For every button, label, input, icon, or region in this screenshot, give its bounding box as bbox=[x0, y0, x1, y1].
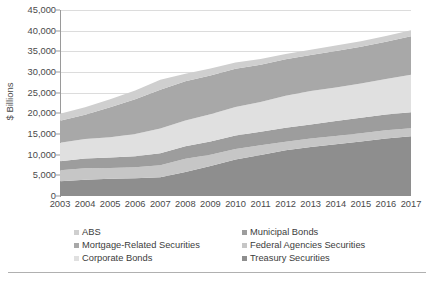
x-axis-tick-label: 2011 bbox=[251, 199, 271, 209]
legend-swatch-icon bbox=[74, 256, 79, 261]
x-axis-tick-labels: 2003200420052006200720082009201020112012… bbox=[60, 199, 411, 213]
x-axis-tick-label: 2010 bbox=[225, 199, 246, 209]
y-axis-tick-label: 40,000 bbox=[18, 26, 56, 36]
y-axis-tick-label: 5,000 bbox=[18, 170, 56, 180]
y-axis-title: $ Billions bbox=[4, 62, 15, 142]
legend-swatch-icon bbox=[242, 230, 247, 235]
y-axis-tick-label: 30,000 bbox=[18, 67, 56, 77]
footer-divider bbox=[8, 272, 426, 273]
x-axis-tick-label: 2003 bbox=[50, 199, 71, 209]
legend-swatch-icon bbox=[74, 230, 79, 235]
x-axis-tick-label: 2012 bbox=[275, 199, 296, 209]
x-axis-tick-label: 2017 bbox=[401, 199, 422, 209]
legend-item-label: Federal Agencies Securities bbox=[250, 240, 365, 251]
legend-item[interactable]: Federal Agencies Securities bbox=[242, 240, 365, 251]
x-axis-tick-label: 2015 bbox=[351, 199, 372, 209]
x-axis-tick-label: 2007 bbox=[150, 199, 171, 209]
y-axis-tick-label: 35,000 bbox=[18, 46, 56, 56]
legend-item[interactable]: ABS bbox=[74, 227, 101, 238]
legend-swatch-icon bbox=[74, 243, 79, 248]
legend-item[interactable]: Mortgage-Related Securities bbox=[74, 240, 200, 251]
x-axis-tick-label: 2013 bbox=[300, 199, 321, 209]
stacked-area-chart-figure: $ Billions 05,00010,00015,00020,00025,00… bbox=[0, 0, 434, 282]
y-axis-tick-label: 25,000 bbox=[18, 88, 56, 98]
legend-item[interactable]: Treasury Securities bbox=[242, 253, 330, 264]
x-axis-tick-label: 2008 bbox=[175, 199, 196, 209]
y-axis-tick-labels: 05,00010,00015,00020,00025,00030,00035,0… bbox=[18, 10, 56, 196]
y-axis-tick-label: 15,000 bbox=[18, 129, 56, 139]
y-axis-tick-label: 45,000 bbox=[18, 5, 56, 15]
legend-item[interactable]: Municipal Bonds bbox=[242, 227, 318, 238]
legend-item-label: Municipal Bonds bbox=[250, 227, 318, 238]
area-series-layer bbox=[60, 10, 411, 196]
legend-item-label: ABS bbox=[82, 227, 101, 238]
legend-item[interactable]: Corporate Bonds bbox=[74, 253, 152, 264]
legend-item-label: Corporate Bonds bbox=[82, 253, 152, 264]
legend-item-label: Treasury Securities bbox=[250, 253, 330, 264]
legend-item-label: Mortgage-Related Securities bbox=[82, 240, 200, 251]
x-axis-tick-label: 2004 bbox=[75, 199, 96, 209]
legend-swatch-icon bbox=[242, 256, 247, 261]
y-axis-tick-label: 20,000 bbox=[18, 108, 56, 118]
x-axis-tick-label: 2016 bbox=[376, 199, 397, 209]
x-axis-tick-label: 2009 bbox=[200, 199, 221, 209]
x-axis-tick-label: 2014 bbox=[325, 199, 346, 209]
x-axis-tick-label: 2006 bbox=[125, 199, 146, 209]
legend-swatch-icon bbox=[242, 243, 247, 248]
plot-region: $ Billions 05,00010,00015,00020,00025,00… bbox=[0, 0, 434, 222]
y-axis-tick-label: 10,000 bbox=[18, 150, 56, 160]
chart-legend: ABSMortgage-Related SecuritiesCorporate … bbox=[74, 227, 394, 267]
x-axis-tick-label: 2005 bbox=[100, 199, 121, 209]
